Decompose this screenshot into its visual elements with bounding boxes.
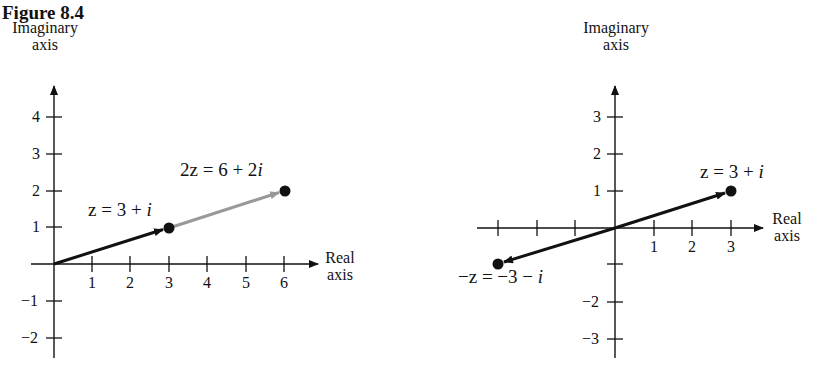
right-x-axis-label: Real axis (767, 210, 807, 244)
y-tick-label: 2 (593, 145, 601, 163)
y-tick-label: −3 (582, 330, 599, 348)
x-tick-label: 1 (650, 238, 658, 256)
point-z (726, 186, 737, 197)
right-plot-axes (0, 0, 824, 375)
y-tick-label: 1 (593, 182, 601, 200)
y-tick-label: −2 (582, 293, 599, 311)
label-neg-z: −z = −3 − i (458, 266, 543, 288)
vector-z (615, 193, 725, 228)
x-tick-label: 2 (688, 238, 696, 256)
label-z: z = 3 + i (700, 161, 764, 183)
x-tick-label: 3 (727, 238, 735, 256)
right-y-axis-label: Imaginary axis (571, 19, 661, 53)
x-axis-label-line2: axis (767, 227, 807, 244)
x-axis-label-line1: Real (767, 210, 807, 227)
y-axis-label-line2: axis (571, 36, 661, 53)
vector-neg-z (504, 228, 615, 262)
y-axis-label-line1: Imaginary (571, 19, 661, 36)
y-tick-label: 3 (593, 108, 601, 126)
